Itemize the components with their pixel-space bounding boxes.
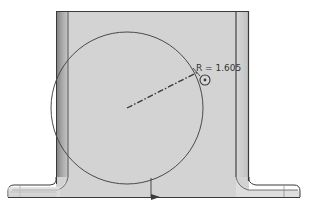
left-wall[interactable] [56, 11, 68, 177]
cad-drawing-canvas [0, 0, 310, 209]
bracket-body[interactable] [8, 11, 300, 198]
right-wall[interactable] [236, 11, 249, 177]
radius-dimension-label[interactable]: R = 1.605 [196, 63, 241, 73]
handle-marker[interactable] [200, 75, 210, 85]
part-face[interactable] [56, 11, 249, 197]
handle-dot-icon [204, 79, 207, 82]
